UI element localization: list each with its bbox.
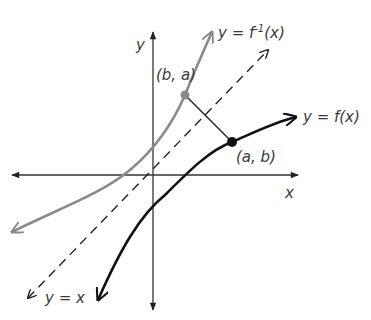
f-inverse-label-suffix: (x) (264, 24, 285, 42)
f-label: y = f(x) (302, 108, 360, 126)
identity-label: y = x (44, 289, 85, 307)
f-curve (98, 117, 296, 300)
f-inverse-label-sup: -1 (254, 23, 264, 34)
inverse-function-diagram: y x (b, a) (a, b) y = f(x) y = f-1(x) y … (0, 0, 371, 320)
reflection-segment (185, 95, 232, 142)
y-axis-label: y (135, 36, 146, 54)
f-inverse-label: y = f-1(x) (217, 23, 285, 42)
point-b-a (181, 91, 190, 100)
point-b-a-label: (b, a) (156, 66, 196, 84)
identity-line (28, 50, 268, 298)
f-inverse-curve (12, 32, 212, 232)
point-a-b (227, 137, 237, 147)
point-a-b-label: (a, b) (236, 148, 276, 166)
x-axis-label: x (284, 184, 294, 202)
f-inverse-label-prefix: y = f (217, 24, 257, 42)
